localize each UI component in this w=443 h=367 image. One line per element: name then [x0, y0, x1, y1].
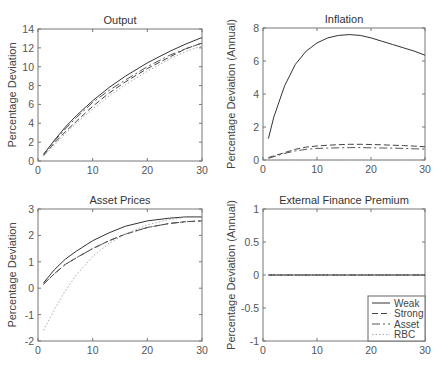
legend-label-weak: Weak	[394, 298, 420, 309]
y-tick-label: 1	[28, 256, 34, 268]
x-tick-label: 20	[365, 344, 377, 356]
x-tick-label: 20	[141, 344, 153, 356]
x-tick-label: 0	[35, 344, 41, 356]
subplot-external-finance-premium: External Finance Premium0102030-1-0.500.…	[225, 194, 431, 356]
y-tick-label: 10	[22, 61, 34, 73]
y-tick-label: -1	[250, 335, 259, 347]
y-tick-label: 8	[28, 80, 34, 92]
legend: WeakStrongAssetRBC	[368, 296, 425, 341]
x-tick-label: 0	[260, 344, 266, 356]
subplot-title: Output	[103, 14, 136, 26]
legend-label-asset: Asset	[394, 319, 419, 330]
y-tick-label: 0	[28, 155, 34, 167]
y-tick-label: 14	[22, 23, 34, 35]
y-axis-label: Percentage Deviation (Annual)	[225, 19, 237, 169]
subplot-title: Inflation	[325, 13, 364, 25]
y-axis-label: Percentage Deviation (Annual)	[225, 200, 237, 350]
y-tick-label: 4	[28, 117, 34, 129]
y-tick-label: 2	[28, 229, 34, 241]
y-tick-label: 0	[253, 154, 259, 166]
y-tick-label: 3	[28, 203, 34, 215]
figure: Output010203002468101214Percentage Devia…	[0, 0, 443, 367]
y-tick-label: 2	[28, 136, 34, 148]
subplot-title: External Finance Premium	[279, 194, 409, 206]
subplot-asset-prices: Asset Prices0102030-2-10123Percentage De…	[6, 194, 208, 356]
y-tick-label: 2	[253, 121, 259, 133]
x-tick-label: 10	[311, 163, 323, 175]
y-tick-label: -2	[25, 335, 34, 347]
x-tick-label: 30	[196, 164, 208, 176]
y-tick-label: 8	[253, 22, 259, 34]
legend-label-rbc: RBC	[394, 329, 415, 340]
y-tick-label: 6	[253, 55, 259, 67]
y-tick-label: 0.5	[244, 236, 259, 248]
x-tick-label: 0	[260, 163, 266, 175]
y-tick-label: 0	[28, 282, 34, 294]
y-tick-label: 4	[253, 88, 259, 100]
subplot-inflation: Inflation010203002468Percentage Deviatio…	[225, 13, 431, 175]
x-tick-label: 10	[87, 344, 99, 356]
x-tick-label: 10	[87, 164, 99, 176]
axes-box	[263, 28, 425, 160]
x-tick-label: 0	[35, 164, 41, 176]
y-tick-label: -1	[25, 309, 34, 321]
x-tick-label: 20	[141, 164, 153, 176]
subplot-title: Asset Prices	[89, 194, 151, 206]
x-tick-label: 10	[311, 344, 323, 356]
y-axis-label: Percentage Deviation	[6, 42, 18, 147]
y-tick-label: -0.5	[241, 302, 259, 314]
x-tick-label: 30	[196, 344, 208, 356]
x-tick-label: 30	[419, 344, 431, 356]
x-tick-label: 20	[365, 163, 377, 175]
axes-box	[38, 29, 202, 161]
legend-label-strong: Strong	[394, 308, 423, 319]
x-tick-label: 30	[419, 163, 431, 175]
y-tick-label: 1	[253, 203, 259, 215]
y-tick-label: 12	[22, 42, 34, 54]
y-tick-label: 0	[253, 269, 259, 281]
y-tick-label: 6	[28, 98, 34, 110]
y-axis-label: Percentage Deviation	[6, 222, 18, 327]
subplot-output: Output010203002468101214Percentage Devia…	[6, 14, 208, 176]
